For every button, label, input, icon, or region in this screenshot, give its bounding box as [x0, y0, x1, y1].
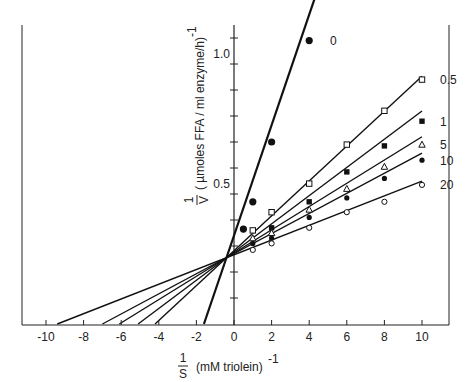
series-line-20 [57, 181, 422, 324]
y-tick-label: 1.0 [213, 47, 230, 61]
x-tick-label: -6 [116, 330, 127, 344]
data-point [382, 176, 387, 181]
x-tick-label: 4 [306, 330, 313, 344]
data-point [419, 158, 424, 163]
data-point [381, 163, 387, 169]
data-point [307, 225, 312, 230]
x-title-exponent: -1 [268, 352, 279, 366]
y-tick-label: 0.5 [213, 177, 230, 191]
x-tick-label: 2 [268, 330, 275, 344]
x-axis-ticks: -10-8-6-4-20246810 [37, 320, 429, 344]
series-line-1 [138, 111, 422, 324]
data-point [419, 77, 424, 82]
series-lines [57, 0, 422, 324]
y-title-exponent: -1 [185, 26, 199, 37]
plot-frame [22, 25, 449, 325]
data-point [250, 241, 255, 246]
series-label-0: 0 [330, 34, 337, 48]
data-point [269, 210, 274, 215]
data-point [268, 138, 275, 145]
x-tick-label: -4 [153, 330, 164, 344]
series-label-0.5: 0.5 [440, 73, 457, 87]
series-label-10: 10 [440, 154, 454, 168]
data-point [382, 108, 387, 113]
data-point [382, 199, 387, 204]
x-tick-label: 6 [343, 330, 350, 344]
x-title-numerator: 1 [180, 351, 187, 365]
series-label-1: 1 [440, 115, 447, 129]
data-point [344, 210, 349, 215]
data-point [307, 181, 312, 186]
data-point [307, 215, 312, 220]
x-tick-label: -8 [78, 330, 89, 344]
x-title-text: (mM triolein) [196, 360, 263, 374]
data-point [419, 141, 425, 147]
data-point [344, 142, 349, 147]
data-point [419, 119, 424, 124]
x-tick-label: 10 [415, 330, 429, 344]
x-title-denominator: S [179, 367, 187, 381]
data-point [250, 228, 255, 233]
data-point [344, 195, 349, 200]
data-point [344, 185, 350, 191]
series-label-20: 20 [440, 178, 454, 192]
data-point [269, 236, 274, 241]
data-point [249, 198, 256, 205]
x-tick-label: 8 [381, 330, 388, 344]
series-line-10 [102, 153, 422, 324]
data-point [250, 247, 255, 252]
x-tick-label: -10 [37, 330, 55, 344]
x-axis-title: 1 S (mM triolein) -1 [178, 351, 279, 381]
series-label-5: 5 [440, 138, 447, 152]
data-point [269, 241, 274, 246]
y-title-text: ( µmoles FFA / ml enzyme/h) [193, 37, 207, 190]
y-title-numerator: 1 [182, 196, 196, 203]
data-point [306, 37, 313, 44]
lineweaver-burk-chart: -10-8-6-4-20246810 0.51.0 00.5151020 1 S… [0, 0, 465, 382]
data-point [307, 199, 312, 204]
x-tick-label: 0 [231, 330, 238, 344]
data-point [344, 169, 349, 174]
y-title-denominator: V [197, 196, 211, 204]
y-axis-title: 1 V ( µmoles FFA / ml enzyme/h) -1 [182, 26, 211, 205]
data-point [419, 182, 424, 187]
x-tick-label: -2 [191, 330, 202, 344]
data-point [382, 143, 387, 148]
data-point [240, 226, 247, 233]
